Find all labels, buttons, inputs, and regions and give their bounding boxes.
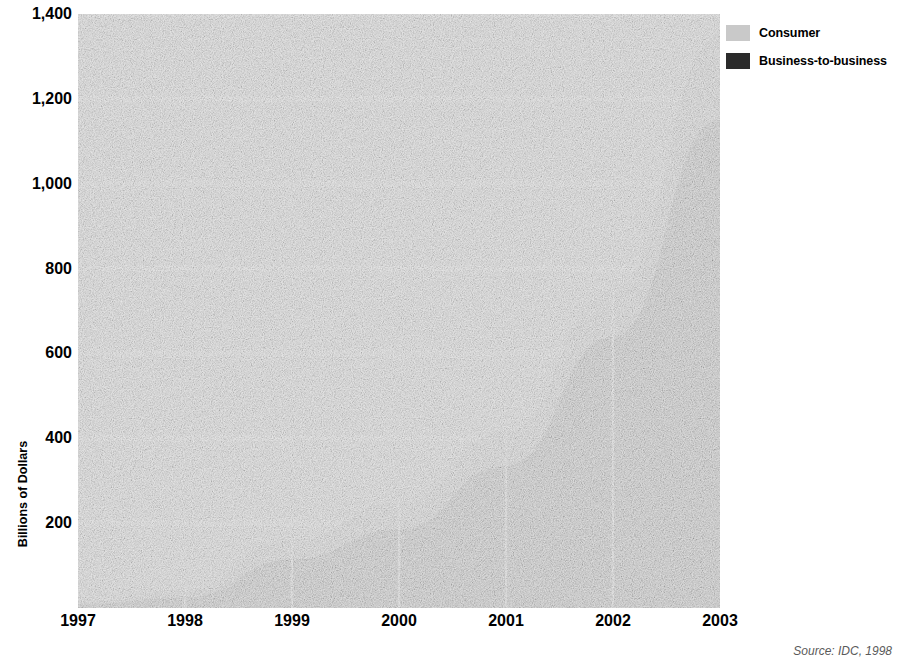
y-axis-tick-600: 600 xyxy=(4,345,72,361)
source-note: Source: IDC, 1998 xyxy=(793,644,892,658)
x-axis-tick-2001: 2001 xyxy=(471,612,541,630)
legend-label: Consumer xyxy=(759,26,820,40)
x-axis-tick-labels: 1997199819992000200120022003 xyxy=(0,612,900,638)
x-axis-tick-1998: 1998 xyxy=(150,612,220,630)
year-divider-1999 xyxy=(291,540,294,608)
x-axis-tick-1999: 1999 xyxy=(257,612,327,630)
legend-label: Business-to-business xyxy=(759,54,887,68)
y-axis-tick-1000: 1,000 xyxy=(4,176,72,192)
year-divider-2000 xyxy=(398,502,401,608)
gridline-1000 xyxy=(78,181,720,187)
legend-item-consumer[interactable]: Consumer xyxy=(726,24,900,42)
gridline-1200 xyxy=(78,96,720,102)
gridline-1400 xyxy=(78,14,720,17)
year-divider-1998 xyxy=(184,590,187,608)
x-axis-tick-2000: 2000 xyxy=(364,612,434,630)
chart-legend: ConsumerBusiness-to-business xyxy=(726,24,900,80)
year-divider-2001 xyxy=(505,432,508,608)
x-axis-tick-2002: 2002 xyxy=(578,612,648,630)
legend-item-business-to-business[interactable]: Business-to-business xyxy=(726,52,900,70)
x-axis-tick-1997: 1997 xyxy=(43,612,113,630)
y-axis-tick-1200: 1,200 xyxy=(4,91,72,107)
y-axis-tick-labels: 1,4001,2001,000800600400200 xyxy=(0,0,72,656)
legend-swatch-consumer xyxy=(726,25,750,41)
gridline-800 xyxy=(78,266,720,272)
legend-swatch-b2b xyxy=(726,53,750,69)
x-axis-tick-2003: 2003 xyxy=(685,612,755,630)
year-divider-2002 xyxy=(612,290,615,608)
y-axis-tick-200: 200 xyxy=(4,515,72,531)
stacked-area-plot xyxy=(78,14,720,608)
plot-area xyxy=(78,14,720,608)
y-axis-tick-1400: 1,400 xyxy=(4,6,72,22)
y-axis-tick-400: 400 xyxy=(4,430,72,446)
y-axis-tick-800: 800 xyxy=(4,261,72,277)
